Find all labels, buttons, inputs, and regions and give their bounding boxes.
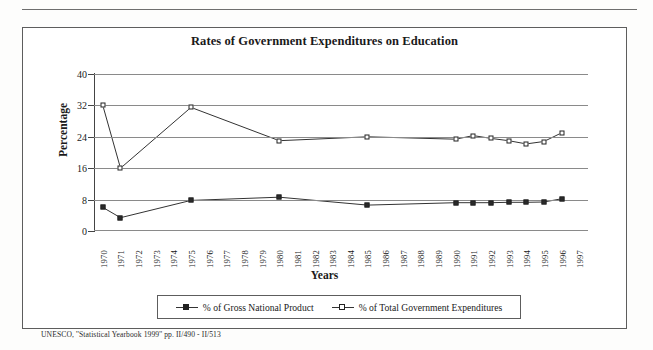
source-note: UNESCO, ''Statistical Yearbook 1999'' pp… <box>41 330 221 339</box>
data-point-1-1992 <box>488 136 493 141</box>
legend-label-0: % of Gross National Product <box>203 302 314 313</box>
x-tick-label-1981: 1981 <box>293 250 303 268</box>
y-tick-label-16: 16 <box>77 163 87 174</box>
data-point-0-1985 <box>365 203 370 208</box>
data-point-1-1985 <box>365 134 370 139</box>
y-axis-line <box>94 73 95 232</box>
plot-area <box>94 74 588 231</box>
gridline-24 <box>94 137 588 138</box>
data-point-0-1996 <box>559 196 564 201</box>
x-tick-label-1996: 1996 <box>558 250 568 268</box>
data-point-0-1970 <box>100 205 105 210</box>
x-tick-label-1980: 1980 <box>275 250 285 268</box>
y-axis-tick-labels: 0816243240 <box>63 74 87 231</box>
data-point-1-1995 <box>541 139 546 144</box>
x-tick-label-1987: 1987 <box>399 250 409 268</box>
y-tick-label-40: 40 <box>77 69 87 80</box>
data-point-1-1991 <box>471 133 476 138</box>
x-tick-label-1975: 1975 <box>187 250 197 268</box>
x-tick-label-1971: 1971 <box>116 250 126 268</box>
data-point-0-1995 <box>541 199 546 204</box>
scanned-page: Rates of Government Expenditures on Educ… <box>0 0 653 350</box>
data-point-0-1990 <box>453 200 458 205</box>
data-point-1-1993 <box>506 138 511 143</box>
y-tick-24 <box>88 137 94 138</box>
x-tick-label-1989: 1989 <box>434 250 444 268</box>
filled-square-icon <box>176 303 198 311</box>
data-point-1-1971 <box>118 166 123 171</box>
x-tick-label-1997: 1997 <box>575 250 585 268</box>
x-tick-label-1978: 1978 <box>240 250 250 268</box>
x-tick-label-1977: 1977 <box>222 250 232 268</box>
x-tick-label-1983: 1983 <box>328 250 338 268</box>
y-tick-8 <box>88 200 94 201</box>
y-tick-16 <box>88 168 94 169</box>
x-tick-label-1985: 1985 <box>363 250 373 268</box>
x-tick-label-1972: 1972 <box>134 250 144 268</box>
open-square-icon <box>332 303 354 311</box>
data-point-1-1996 <box>559 130 564 135</box>
data-point-0-1992 <box>488 200 493 205</box>
data-point-0-1975 <box>189 198 194 203</box>
y-tick-0 <box>88 231 94 232</box>
chart-legend: % of Gross National Product% of Total Go… <box>157 295 521 319</box>
gridline-32 <box>94 105 588 106</box>
x-tick-label-1976: 1976 <box>205 250 215 268</box>
data-point-1-1990 <box>453 137 458 142</box>
gridline-16 <box>94 168 588 169</box>
x-tick-label-1984: 1984 <box>346 250 356 268</box>
data-point-0-1994 <box>524 200 529 205</box>
x-tick-label-1982: 1982 <box>311 250 321 268</box>
figure-container: Rates of Government Expenditures on Educ… <box>22 27 627 329</box>
data-point-1-1994 <box>524 141 529 146</box>
x-tick-label-1973: 1973 <box>152 250 162 268</box>
series-lines <box>94 74 588 231</box>
data-point-0-1991 <box>471 200 476 205</box>
data-point-1-1970 <box>100 103 105 108</box>
y-tick-label-8: 8 <box>82 194 87 205</box>
x-tick-label-1991: 1991 <box>469 250 479 268</box>
x-tick-label-1995: 1995 <box>540 250 550 268</box>
x-tick-label-1970: 1970 <box>99 250 109 268</box>
page-top-rule <box>22 9 637 10</box>
y-tick-label-24: 24 <box>77 131 87 142</box>
x-axis-line <box>94 230 588 231</box>
data-point-0-1993 <box>506 200 511 205</box>
legend-entry-0: % of Gross National Product <box>176 302 314 313</box>
legend-entry-1: % of Total Government Expenditures <box>332 302 503 313</box>
x-tick-label-1974: 1974 <box>169 250 179 268</box>
x-axis-tick-labels: 1970197119721973197419751976197719781979… <box>94 234 588 268</box>
x-tick-label-1994: 1994 <box>522 250 532 268</box>
data-point-0-1980 <box>277 195 282 200</box>
y-tick-32 <box>88 105 94 106</box>
x-tick-label-1992: 1992 <box>487 250 497 268</box>
x-tick-label-1993: 1993 <box>505 250 515 268</box>
y-tick-40 <box>88 74 94 75</box>
data-point-1-1980 <box>277 138 282 143</box>
x-axis-title: Years <box>23 269 626 281</box>
x-tick-label-1979: 1979 <box>258 250 268 268</box>
y-tick-label-32: 32 <box>77 100 87 111</box>
gridline-40 <box>94 74 588 75</box>
data-point-0-1971 <box>118 215 123 220</box>
data-point-1-1975 <box>189 105 194 110</box>
x-tick-label-1988: 1988 <box>416 250 426 268</box>
y-tick-label-0: 0 <box>82 226 87 237</box>
legend-label-1: % of Total Government Expenditures <box>359 302 503 313</box>
chart-title: Rates of Government Expenditures on Educ… <box>23 34 626 49</box>
x-tick-label-1990: 1990 <box>452 250 462 268</box>
x-tick-label-1986: 1986 <box>381 250 391 268</box>
gridline-8 <box>94 200 588 201</box>
